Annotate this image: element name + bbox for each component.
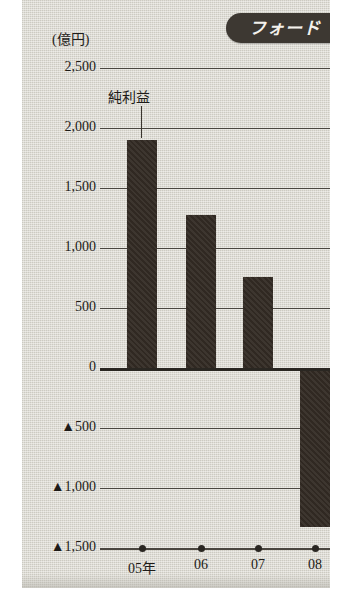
gridline-minus500 xyxy=(100,428,330,429)
x-dot-07 xyxy=(255,545,262,552)
bar-06 xyxy=(186,215,216,368)
annotation-leader-line xyxy=(141,106,142,138)
x-dot-08 xyxy=(312,545,319,552)
gridline-zero xyxy=(100,368,330,371)
bar-07 xyxy=(243,277,273,368)
gridline-minus1500 xyxy=(100,548,330,550)
chart-panel: 2,500 2,000 1,500 1,000 500 0 ▲500 ▲1,00… xyxy=(22,0,330,588)
x-label-07: 07 xyxy=(228,557,288,573)
x-label-05: 05年 xyxy=(112,557,172,577)
x-dot-05 xyxy=(139,545,146,552)
y-tick-minus1000: ▲1,000 xyxy=(48,479,96,495)
x-dot-06 xyxy=(198,545,205,552)
bar-08 xyxy=(300,368,330,527)
y-tick-2500: 2,500 xyxy=(48,59,96,75)
bar-05 xyxy=(127,140,157,368)
y-tick-2000: 2,000 xyxy=(48,119,96,135)
y-tick-500: 500 xyxy=(48,299,96,315)
chart-title-text: フォード xyxy=(226,13,330,43)
annotation-label: 純利益 xyxy=(108,86,150,106)
gridline-2500 xyxy=(100,68,330,69)
y-tick-minus500: ▲500 xyxy=(48,419,96,435)
x-label-08: 08 xyxy=(285,557,330,573)
chart-title-badge: フォード xyxy=(226,13,330,43)
y-axis-unit-label: (億円) xyxy=(52,28,89,48)
chart-page: 2,500 2,000 1,500 1,000 500 0 ▲500 ▲1,00… xyxy=(0,0,348,609)
gridline-2000 xyxy=(100,128,330,129)
y-tick-minus1500: ▲1,500 xyxy=(48,539,96,555)
y-tick-1000: 1,000 xyxy=(48,239,96,255)
x-label-06: 06 xyxy=(171,557,231,573)
y-tick-1500: 1,500 xyxy=(48,179,96,195)
gridline-minus1000 xyxy=(100,488,330,489)
y-tick-0: 0 xyxy=(48,359,96,375)
